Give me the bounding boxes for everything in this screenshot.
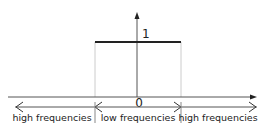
region-label-high-right: high frequencies — [178, 112, 257, 123]
origin-label: 0 — [135, 96, 143, 110]
amplitude-axis-arrow-icon — [135, 12, 140, 19]
region-label-low: low frequencies — [101, 112, 176, 123]
value-one-label: 1 — [142, 27, 150, 41]
low-pass-filter-diagram: 1 0 high frequencies low frequencies hig… — [0, 0, 273, 136]
region-label-high-left: high frequencies — [12, 112, 91, 123]
frequency-axis-arrow-icon — [250, 95, 257, 100]
